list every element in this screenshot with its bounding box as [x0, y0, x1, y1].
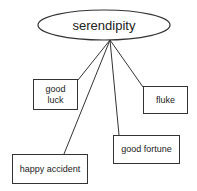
center-node-label: serendipity	[38, 10, 170, 40]
edge-good-fortune	[110, 40, 119, 135]
node-label: good luck	[43, 84, 69, 106]
node-label: fluke	[156, 95, 175, 106]
node-label: happy accident	[20, 164, 81, 175]
node-happy-accident: happy accident	[12, 154, 88, 184]
node-fluke: fluke	[143, 86, 188, 114]
node-good-luck: good luck	[33, 79, 78, 110]
edge-fluke	[110, 40, 143, 87]
edge-good-luck	[78, 40, 110, 80]
node-good-fortune: good fortune	[113, 135, 180, 164]
node-label: good fortune	[121, 144, 172, 155]
